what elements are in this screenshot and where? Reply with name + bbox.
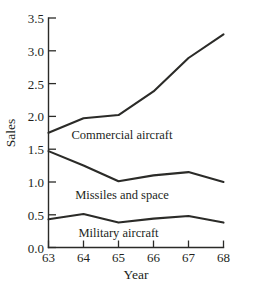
x-tick-label-67: 67 xyxy=(182,250,196,265)
x-axis-ticks xyxy=(49,241,224,248)
y-tick-label-1.5: 1.5 xyxy=(28,142,44,157)
series-label-military-aircraft: Military aircraft xyxy=(78,226,159,240)
x-tick-label-66: 66 xyxy=(147,250,161,265)
y-tick-label-0.5: 0.5 xyxy=(28,208,44,223)
series-label-commercial-aircraft: Commercial aircraft xyxy=(72,128,174,142)
x-axis: 63 64 65 66 67 68 Year xyxy=(42,241,230,283)
sales-by-year-line-chart: 3.5 3.0 2.5 2.0 1.5 1.0 0.5 0.0 Sales xyxy=(0,0,264,287)
x-tick-label-65: 65 xyxy=(112,250,125,265)
x-axis-title: Year xyxy=(124,267,149,282)
series-line-missiles-and-space xyxy=(49,151,224,182)
y-tick-label-2.5: 2.5 xyxy=(28,77,44,92)
x-axis-tick-labels: 63 64 65 66 67 68 xyxy=(42,250,230,265)
y-axis-tick-labels: 3.5 3.0 2.5 2.0 1.5 1.0 0.5 0.0 xyxy=(28,11,44,256)
chart-canvas: 3.5 3.0 2.5 2.0 1.5 1.0 0.5 0.0 Sales xyxy=(0,0,264,287)
y-tick-label-1.0: 1.0 xyxy=(28,175,44,190)
x-tick-label-68: 68 xyxy=(217,250,230,265)
x-tick-label-63: 63 xyxy=(42,250,55,265)
series-line-military-aircraft xyxy=(49,214,224,223)
y-axis-title: Sales xyxy=(3,119,18,148)
series-label-missiles-and-space: Missiles and space xyxy=(75,188,169,202)
series-line-commercial-aircraft xyxy=(49,34,224,132)
x-tick-label-64: 64 xyxy=(77,250,91,265)
y-tick-label-3.0: 3.0 xyxy=(28,44,44,59)
y-tick-label-3.5: 3.5 xyxy=(28,11,44,26)
y-tick-label-2.0: 2.0 xyxy=(28,109,44,124)
